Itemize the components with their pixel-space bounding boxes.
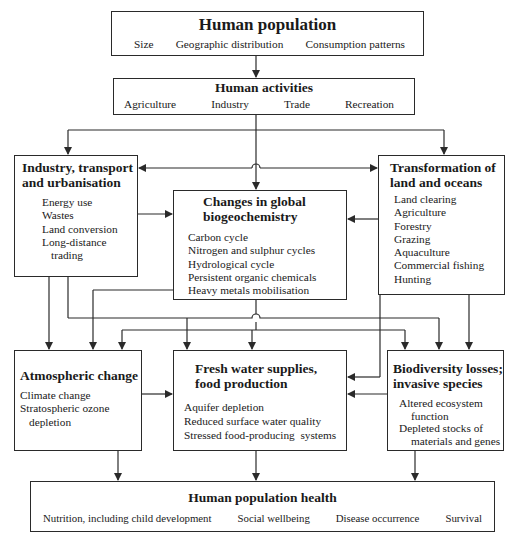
transformation-item: Aquaculture	[394, 246, 504, 259]
health-item-disease: Disease occurrence	[336, 512, 420, 524]
activity-recreation: Recreation	[345, 98, 394, 110]
atmospheric-item: Stratospheric ozone	[20, 402, 141, 415]
atmospheric-item: depletion	[20, 416, 141, 429]
freshwater-item: Stressed food-producing systems	[184, 428, 346, 442]
transformation-title-line1: Transformation of	[390, 161, 504, 176]
biodiversity-item: Depleted stocks of	[399, 422, 503, 435]
population-item-geographic: Geographic distribution	[176, 38, 284, 50]
biogeochem-item: Heavy metals mobilisation	[188, 284, 346, 297]
health-item-survival: Survival	[445, 512, 482, 524]
freshwater-title: Fresh water supplies, food production	[174, 351, 346, 391]
activity-industry: Industry	[211, 98, 249, 110]
biodiversity-title-line1: Biodiversity losses;	[393, 362, 503, 377]
biodiversity-title-line2: invasive species	[393, 377, 503, 392]
transformation-item: Agriculture	[394, 206, 504, 219]
freshwater-title-line2: food production	[195, 377, 346, 392]
activity-trade: Trade	[284, 98, 310, 110]
biogeochemistry-title: Changes in global biogeochemistry	[174, 191, 346, 224]
biogeochem-item: Carbon cycle	[188, 231, 346, 244]
freshwater-item: Aquifer depletion	[184, 400, 346, 414]
biodiversity-box: Biodiversity losses; invasive species Al…	[387, 350, 504, 451]
transformation-title-line2: land and oceans	[390, 176, 504, 191]
industry-box: Industry, transport and urbanisation Ene…	[14, 155, 138, 277]
human-activities-title: Human activities	[114, 80, 414, 96]
population-item-size: Size	[134, 38, 153, 50]
biodiversity-title: Biodiversity losses; invasive species	[388, 351, 503, 391]
transformation-title: Transformation of land and oceans	[379, 156, 504, 190]
transformation-item: Commercial fishing	[394, 259, 504, 272]
atmospheric-item: Climate change	[20, 389, 141, 402]
biodiversity-item: materials and genes	[399, 435, 503, 448]
human-population-box: Human population Size Geographic distrib…	[111, 11, 424, 56]
transformation-item: Grazing	[394, 233, 504, 246]
freshwater-box: Fresh water supplies, food production Aq…	[173, 350, 347, 451]
health-item-social: Social wellbeing	[238, 512, 310, 524]
transformation-item: Hunting	[394, 273, 504, 286]
industry-item: Land conversion	[42, 223, 137, 236]
activity-agriculture: Agriculture	[124, 98, 176, 110]
biodiversity-item: function	[399, 410, 503, 423]
biogeochem-item: Hydrological cycle	[188, 258, 346, 271]
transformation-box: Transformation of land and oceans Land c…	[378, 155, 505, 295]
industry-item: trading	[42, 249, 137, 262]
health-item-nutrition: Nutrition, including child development	[43, 512, 212, 524]
population-item-consumption: Consumption patterns	[306, 38, 405, 50]
health-title: Human population health	[31, 490, 494, 506]
transformation-item: Forestry	[394, 220, 504, 233]
biogeochem-item: Nitrogen and sulphur cycles	[188, 244, 346, 257]
industry-title-line1: Industry, transport	[22, 161, 137, 176]
atmospheric-box: Atmospheric change Climate change Strato…	[14, 350, 142, 451]
biogeochem-title-line2: biogeochemistry	[203, 210, 346, 225]
industry-item: Long-distance	[42, 236, 137, 249]
industry-title: Industry, transport and urbanisation	[15, 156, 137, 190]
industry-item: Wastes	[42, 209, 137, 222]
biogeochem-item: Persistent organic chemicals	[188, 271, 346, 284]
industry-title-line2: and urbanisation	[22, 176, 137, 191]
biogeochemistry-box: Changes in global biogeochemistry Carbon…	[173, 190, 347, 300]
health-box: Human population health Nutrition, inclu…	[30, 481, 495, 532]
biogeochem-title-line1: Changes in global	[203, 195, 346, 210]
human-population-title: Human population	[112, 15, 423, 35]
biodiversity-item: Altered ecosystem	[399, 397, 503, 410]
freshwater-item: Reduced surface water quality	[184, 414, 346, 428]
transformation-item: Land clearing	[394, 193, 504, 206]
freshwater-title-line1: Fresh water supplies,	[195, 362, 346, 377]
human-activities-box: Human activities Agriculture Industry Tr…	[113, 78, 415, 115]
atmospheric-title: Atmospheric change	[15, 351, 141, 384]
industry-item: Energy use	[42, 196, 137, 209]
